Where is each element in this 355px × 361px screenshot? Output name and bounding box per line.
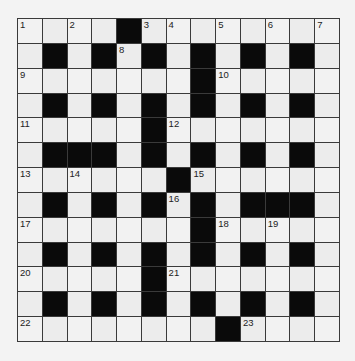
letter-cell[interactable]: 9 (18, 69, 42, 93)
letter-cell[interactable] (117, 317, 141, 341)
letter-cell[interactable] (216, 94, 240, 118)
letter-cell[interactable] (167, 218, 191, 242)
letter-cell[interactable]: 11 (18, 118, 42, 142)
letter-cell[interactable] (18, 94, 42, 118)
letter-cell[interactable]: 15 (191, 168, 215, 192)
letter-cell[interactable] (43, 19, 67, 43)
letter-cell[interactable] (43, 218, 67, 242)
letter-cell[interactable] (18, 143, 42, 167)
letter-cell[interactable] (92, 118, 116, 142)
letter-cell[interactable] (290, 118, 314, 142)
letter-cell[interactable] (92, 168, 116, 192)
letter-cell[interactable] (266, 143, 290, 167)
letter-cell[interactable]: 13 (18, 168, 42, 192)
letter-cell[interactable] (68, 292, 92, 316)
letter-cell[interactable] (117, 143, 141, 167)
letter-cell[interactable] (18, 292, 42, 316)
letter-cell[interactable]: 2 (68, 19, 92, 43)
letter-cell[interactable]: 22 (18, 317, 42, 341)
letter-cell[interactable] (167, 243, 191, 267)
letter-cell[interactable] (241, 168, 265, 192)
letter-cell[interactable]: 18 (216, 218, 240, 242)
letter-cell[interactable] (290, 69, 314, 93)
letter-cell[interactable] (315, 143, 339, 167)
letter-cell[interactable] (216, 143, 240, 167)
letter-cell[interactable] (68, 44, 92, 68)
letter-cell[interactable] (92, 69, 116, 93)
letter-cell[interactable] (92, 317, 116, 341)
letter-cell[interactable]: 8 (117, 44, 141, 68)
letter-cell[interactable]: 17 (18, 218, 42, 242)
letter-cell[interactable] (68, 193, 92, 217)
letter-cell[interactable]: 1 (18, 19, 42, 43)
letter-cell[interactable] (167, 69, 191, 93)
letter-cell[interactable] (315, 69, 339, 93)
letter-cell[interactable] (68, 267, 92, 291)
letter-cell[interactable] (43, 69, 67, 93)
letter-cell[interactable] (167, 44, 191, 68)
letter-cell[interactable] (266, 94, 290, 118)
letter-cell[interactable] (290, 168, 314, 192)
letter-cell[interactable] (241, 19, 265, 43)
letter-cell[interactable]: 19 (266, 218, 290, 242)
letter-cell[interactable]: 5 (216, 19, 240, 43)
letter-cell[interactable] (315, 243, 339, 267)
letter-cell[interactable] (266, 267, 290, 291)
letter-cell[interactable] (315, 44, 339, 68)
letter-cell[interactable]: 7 (315, 19, 339, 43)
letter-cell[interactable] (216, 193, 240, 217)
letter-cell[interactable] (167, 317, 191, 341)
letter-cell[interactable] (68, 317, 92, 341)
letter-cell[interactable] (241, 118, 265, 142)
letter-cell[interactable] (68, 218, 92, 242)
letter-cell[interactable] (68, 94, 92, 118)
letter-cell[interactable] (167, 143, 191, 167)
letter-cell[interactable] (315, 317, 339, 341)
letter-cell[interactable]: 3 (142, 19, 166, 43)
letter-cell[interactable] (266, 69, 290, 93)
letter-cell[interactable] (315, 94, 339, 118)
letter-cell[interactable] (142, 317, 166, 341)
letter-cell[interactable] (142, 168, 166, 192)
letter-cell[interactable] (117, 243, 141, 267)
letter-cell[interactable] (167, 292, 191, 316)
letter-cell[interactable] (315, 168, 339, 192)
letter-cell[interactable] (315, 193, 339, 217)
letter-cell[interactable] (266, 118, 290, 142)
letter-cell[interactable] (43, 168, 67, 192)
letter-cell[interactable]: 23 (241, 317, 265, 341)
letter-cell[interactable] (315, 218, 339, 242)
letter-cell[interactable] (241, 267, 265, 291)
letter-cell[interactable] (191, 118, 215, 142)
letter-cell[interactable] (18, 243, 42, 267)
letter-cell[interactable] (241, 69, 265, 93)
letter-cell[interactable] (117, 69, 141, 93)
letter-cell[interactable] (266, 168, 290, 192)
letter-cell[interactable]: 20 (18, 267, 42, 291)
letter-cell[interactable] (117, 193, 141, 217)
letter-cell[interactable] (216, 267, 240, 291)
letter-cell[interactable] (117, 168, 141, 192)
letter-cell[interactable] (191, 267, 215, 291)
letter-cell[interactable] (117, 218, 141, 242)
letter-cell[interactable] (216, 292, 240, 316)
letter-cell[interactable] (315, 267, 339, 291)
letter-cell[interactable] (290, 317, 314, 341)
letter-cell[interactable] (290, 218, 314, 242)
letter-cell[interactable]: 6 (266, 19, 290, 43)
letter-cell[interactable]: 16 (167, 193, 191, 217)
letter-cell[interactable] (216, 44, 240, 68)
letter-cell[interactable] (290, 267, 314, 291)
letter-cell[interactable] (92, 19, 116, 43)
letter-cell[interactable] (290, 19, 314, 43)
letter-cell[interactable] (117, 267, 141, 291)
letter-cell[interactable] (68, 118, 92, 142)
letter-cell[interactable] (167, 94, 191, 118)
letter-cell[interactable] (241, 218, 265, 242)
letter-cell[interactable] (191, 317, 215, 341)
letter-cell[interactable] (117, 118, 141, 142)
letter-cell[interactable] (117, 94, 141, 118)
letter-cell[interactable] (266, 317, 290, 341)
letter-cell[interactable]: 4 (167, 19, 191, 43)
letter-cell[interactable] (92, 267, 116, 291)
